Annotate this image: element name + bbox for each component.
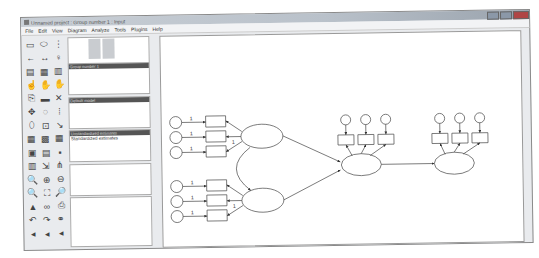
touch-up-icon[interactable]: ↘	[53, 118, 67, 132]
undo-icon[interactable]: ↶	[26, 213, 40, 227]
move-icon[interactable]: ▬	[38, 92, 52, 106]
duplicate-icon[interactable]: ⎘	[24, 92, 38, 106]
title-icon[interactable]: ▤	[24, 65, 38, 79]
indicator-icon[interactable]: ⋮	[51, 37, 65, 51]
menu-diagram[interactable]: Diagram	[68, 27, 87, 33]
minimize-button[interactable]	[487, 11, 499, 19]
zoom-in-icon[interactable]: ⊕	[39, 172, 53, 186]
analysis-properties-icon[interactable]: ▩	[39, 132, 53, 146]
view-input-icon[interactable]	[88, 39, 100, 59]
unique-variable-icon[interactable]: ♀	[52, 51, 66, 65]
path-label: 1	[191, 209, 194, 215]
panels: Group number 1 Default model Unstandardi…	[67, 36, 152, 245]
menu-analyze[interactable]: Analyze	[92, 27, 110, 33]
scroll-icon[interactable]: ⊡	[39, 119, 53, 133]
binoculars-icon[interactable]: ⚭	[54, 213, 68, 227]
list-data-icon[interactable]: ▥	[52, 64, 66, 78]
diagram-canvas[interactable]: 1 1 1 1 1 1 1 1	[159, 30, 524, 248]
app-icon	[24, 20, 29, 25]
multiple-group-icon[interactable]: ∞	[40, 199, 54, 213]
deselect-icon[interactable]: ✋	[52, 78, 66, 92]
groups-panel: Group number 1	[68, 62, 150, 95]
menu-help[interactable]: Help	[152, 26, 162, 32]
print-icon[interactable]: ⎙	[54, 199, 68, 213]
menu-edit[interactable]: Edit	[38, 28, 47, 34]
menu-view[interactable]: View	[52, 27, 63, 33]
zoom-out-icon[interactable]: ⊖	[53, 172, 67, 186]
model-item[interactable]: Default model	[69, 97, 149, 103]
covariance-icon[interactable]: ↔	[38, 51, 52, 65]
reflect-icon[interactable]: ⁞	[52, 105, 66, 119]
group-item[interactable]: Group number 1	[69, 63, 149, 69]
sem-path-diagram: 1 1 1 1 1 1 1 1	[160, 31, 523, 247]
select-all-icon[interactable]: ✋	[38, 78, 52, 92]
path-label: 1	[190, 145, 193, 151]
drag-properties-icon[interactable]: ⇲	[39, 159, 53, 173]
maximize-button[interactable]	[500, 11, 512, 19]
bayesian-icon[interactable]: ▲	[26, 200, 40, 214]
erase-icon[interactable]: ✕	[52, 91, 66, 105]
standardized-item[interactable]: Standardized estimates	[70, 135, 150, 141]
fit-page-icon[interactable]: ⛶	[40, 186, 54, 200]
path-label: 1	[190, 115, 193, 121]
path-label: 1	[191, 194, 194, 200]
view-output-icon[interactable]	[102, 39, 114, 59]
path-icon[interactable]: ←	[24, 51, 38, 65]
calculate-icon[interactable]: ▦	[53, 132, 67, 146]
estimates-panel: Unstandardized estimates Standardized es…	[69, 129, 151, 162]
menu-file[interactable]: File	[25, 28, 33, 34]
magnifier-icon[interactable]: 🔎	[54, 186, 68, 200]
move-parameters-icon[interactable]: ⬯	[25, 119, 39, 133]
window-title: Unnamed project : Group number 1 : Input	[31, 18, 125, 25]
page-view-icon[interactable]: 🔍	[26, 186, 40, 200]
files-panel	[70, 196, 153, 247]
text-output-icon[interactable]: ▤	[39, 145, 53, 159]
select-one-icon[interactable]: ☝	[24, 78, 38, 92]
symmetries-icon[interactable]: ⋔	[53, 159, 67, 173]
save-icon[interactable]: ▪	[53, 145, 67, 159]
amos-window: Unnamed project : Group number 1 : Input…	[20, 9, 534, 251]
left-icon-3[interactable]: ◂	[54, 226, 68, 240]
ellipse-icon[interactable]: ⬭	[37, 38, 51, 52]
zoom-select-icon[interactable]: 🔍	[25, 173, 39, 187]
path-label: 1	[233, 203, 236, 209]
left-icon-2[interactable]: ◂	[40, 226, 54, 240]
copy-icon[interactable]: ▣	[25, 146, 39, 160]
shape-change-icon[interactable]: ✥	[24, 105, 38, 119]
menu-tools[interactable]: Tools	[114, 26, 126, 32]
object-properties-icon[interactable]: ▥	[25, 159, 39, 173]
menu-plugins[interactable]: Plugins	[131, 26, 147, 32]
redo-icon[interactable]: ↷	[40, 213, 54, 227]
computation-panel	[69, 163, 151, 196]
list-model-icon[interactable]: ▦	[38, 65, 52, 79]
close-button[interactable]	[513, 11, 529, 19]
path-label: 1	[190, 130, 193, 136]
data-files-icon[interactable]: ▦	[25, 132, 39, 146]
models-panel: Default model	[68, 96, 150, 129]
path-label: 1	[232, 139, 235, 145]
rectangle-icon[interactable]: ▭	[23, 38, 37, 52]
left-icon[interactable]: ◂	[26, 227, 40, 241]
rotate-icon[interactable]: ◌	[38, 105, 52, 119]
toolbox: ▭ ⬭ ⋮ ← ↔ ♀ ▤ ▦ ▥ ☝ ✋ ✋ ⎘ ▬ ✕ ✥ ◌ ⁞ ⬯ ⊡ …	[23, 37, 68, 248]
path-label: 1	[191, 179, 194, 185]
